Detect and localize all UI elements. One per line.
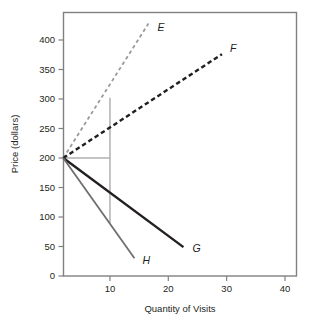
x-axis-title: Quantity of Visits: [144, 303, 215, 314]
y-tick-label: 50: [44, 241, 55, 252]
y-tick-label: 300: [39, 93, 55, 104]
price-quantity-line-chart: 050100150200250300350400 10203040 EFGH P…: [0, 0, 314, 324]
x-tick-label: 30: [221, 283, 232, 294]
x-tick-label: 40: [280, 283, 291, 294]
series-label-f: F: [230, 42, 237, 54]
x-tick-label: 10: [105, 283, 116, 294]
y-tick-label: 150: [39, 182, 55, 193]
series-label-e: E: [157, 21, 165, 33]
y-tick-label: 250: [39, 123, 55, 134]
chart-container: 050100150200250300350400 10203040 EFGH P…: [0, 0, 314, 324]
y-tick-label: 0: [50, 270, 55, 281]
series-label-h: H: [142, 254, 150, 266]
y-tick-label: 400: [39, 34, 55, 45]
y-tick-label: 100: [39, 211, 55, 222]
series-label-g: G: [192, 242, 200, 254]
y-tick-label: 200: [39, 152, 55, 163]
y-tick-label: 350: [39, 64, 55, 75]
x-tick-label: 20: [163, 283, 174, 294]
y-axis-title: Price (dollars): [9, 115, 20, 174]
